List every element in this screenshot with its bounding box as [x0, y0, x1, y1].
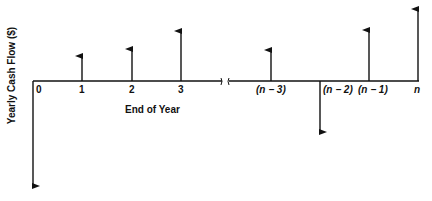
x-axis-label: End of Year	[125, 104, 180, 115]
axis-break-icon	[221, 78, 229, 85]
tick-label-1: 1	[79, 84, 85, 95]
tick-label-0: 0	[36, 84, 42, 95]
y-axis-label: Yearly Cash Flow ($)	[6, 21, 17, 131]
tick-label-n-3: (n − 3)	[256, 84, 286, 95]
tick-label-n: n	[414, 84, 420, 95]
tick-label-2: 2	[129, 84, 135, 95]
tick-label-n-1: (n − 1)	[358, 84, 388, 95]
tick-label-n-2: (n − 2)	[323, 84, 353, 95]
cash-flow-diagram	[0, 0, 432, 201]
tick-label-3: 3	[178, 84, 184, 95]
